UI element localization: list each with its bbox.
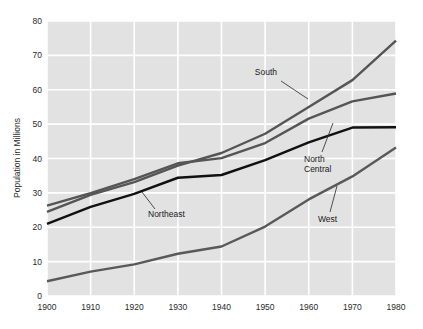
y-tick-label-40: 40 <box>33 154 43 164</box>
x-tick-label-1910: 1910 <box>81 302 100 312</box>
series-label-south: South <box>255 67 277 77</box>
x-tick-label-1960: 1960 <box>299 302 318 312</box>
y-tick-label-70: 70 <box>33 50 43 60</box>
x-tick-label-1950: 1950 <box>256 302 275 312</box>
y-axis-title: Population in Millions <box>12 118 22 198</box>
y-tick-label-50: 50 <box>33 119 43 129</box>
series-label-central: Central <box>304 164 332 174</box>
y-tick-label-0: 0 <box>37 291 42 301</box>
x-tick-label-1930: 1930 <box>168 302 187 312</box>
x-tick-label-1940: 1940 <box>212 302 231 312</box>
x-tick-label-1980: 1980 <box>387 302 406 312</box>
y-tick-label-60: 60 <box>33 85 43 95</box>
y-tick-label-30: 30 <box>33 188 43 198</box>
series-label-north: North <box>304 154 325 164</box>
line-chart: 01020304050607080 1900191019201930194019… <box>0 0 423 329</box>
y-tick-label-10: 10 <box>33 257 43 267</box>
y-axis-tick-labels: 01020304050607080 <box>33 16 43 301</box>
series-label-northeast: Northeast <box>148 209 185 219</box>
y-tick-label-20: 20 <box>33 222 43 232</box>
x-tick-label-1920: 1920 <box>125 302 144 312</box>
chart-canvas: 01020304050607080 1900191019201930194019… <box>0 0 423 329</box>
y-tick-label-80: 80 <box>33 16 43 26</box>
series-label-west: West <box>318 214 338 224</box>
x-axis-tick-labels: 190019101920193019401950196019701980 <box>38 302 406 312</box>
x-tick-label-1970: 1970 <box>343 302 362 312</box>
x-tick-label-1900: 1900 <box>38 302 57 312</box>
